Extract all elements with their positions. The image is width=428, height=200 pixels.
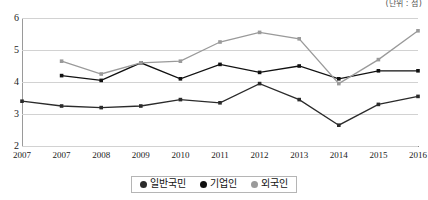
series-일반국민 [20, 82, 420, 127]
y-axis-labels: 23456 [0, 0, 19, 165]
y-tick-label: 6 [3, 13, 19, 23]
x-tick-label: 2011 [211, 150, 229, 162]
series-layer [22, 18, 418, 146]
data-point-marker [377, 103, 381, 107]
legend-marker-circle-icon [251, 181, 258, 188]
data-point-marker [297, 37, 301, 41]
legend-label: 기업인 [210, 179, 237, 189]
y-tick-label: 4 [3, 77, 19, 87]
data-point-marker [60, 104, 64, 108]
unit-note: (단위 : 점) [385, 0, 422, 8]
data-point-marker [297, 98, 301, 102]
x-tick-label: 2013 [290, 150, 308, 162]
x-tick-label: 2008 [92, 150, 110, 162]
y-tick-label: 3 [3, 109, 19, 119]
data-point-marker [416, 69, 420, 73]
data-point-marker [99, 72, 103, 76]
legend-item-외국인[interactable]: 외국인 [251, 179, 288, 189]
x-tick-label: 2012 [251, 150, 269, 162]
data-point-marker [218, 63, 222, 67]
x-axis-labels: 2007200720082009201020112012201320142015… [22, 150, 418, 166]
series-line [62, 31, 418, 84]
legend-item-일반국민[interactable]: 일반국민 [140, 179, 186, 189]
data-point-marker [258, 82, 262, 86]
data-point-marker [258, 71, 262, 75]
data-point-marker [139, 61, 143, 65]
gridline-2 [22, 146, 418, 147]
x-tick-label: 2014 [330, 150, 348, 162]
legend-label: 일반국민 [150, 179, 186, 189]
x-tick-label: 2007 [53, 150, 71, 162]
line-chart: (단위 : 점) 23456 2007200720082009201020112… [0, 0, 428, 200]
data-point-marker [337, 77, 341, 81]
data-point-marker [218, 40, 222, 44]
legend-marker-circle-icon [200, 181, 207, 188]
plot-area [22, 18, 418, 146]
data-point-marker [337, 82, 341, 86]
legend-item-기업인[interactable]: 기업인 [200, 179, 237, 189]
data-point-marker [377, 58, 381, 62]
data-point-marker [258, 31, 262, 35]
data-point-marker [377, 69, 381, 73]
series-기업인 [60, 61, 420, 82]
legend-label: 외국인 [261, 179, 288, 189]
x-tick-label: 2015 [369, 150, 387, 162]
x-tick-label: 2007 [13, 150, 31, 162]
data-point-marker [297, 64, 301, 68]
legend-marker-circle-icon [140, 181, 147, 188]
series-외국인 [60, 29, 420, 85]
data-point-marker [20, 99, 24, 103]
data-point-marker [99, 106, 103, 110]
data-point-marker [218, 101, 222, 105]
data-point-marker [179, 77, 183, 81]
data-point-marker [179, 59, 183, 63]
x-tick-label: 2010 [171, 150, 189, 162]
y-tick-label: 5 [3, 45, 19, 55]
data-point-marker [337, 123, 341, 127]
data-point-marker [179, 98, 183, 102]
x-tick-label: 2016 [409, 150, 427, 162]
data-point-marker [139, 104, 143, 108]
data-point-marker [60, 74, 64, 78]
data-point-marker [60, 59, 64, 63]
data-point-marker [416, 29, 420, 33]
chart-legend: 일반국민기업인외국인 [131, 176, 297, 193]
series-line [62, 63, 418, 81]
data-point-marker [416, 95, 420, 99]
data-point-marker [99, 79, 103, 83]
x-tick-label: 2009 [132, 150, 150, 162]
